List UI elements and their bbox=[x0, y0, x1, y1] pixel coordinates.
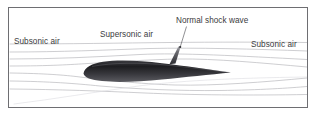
label-subsonic-air-right: Subsonic air bbox=[251, 41, 297, 49]
streamline-8-faint bbox=[14, 77, 307, 104]
streamline-6 bbox=[10, 81, 307, 91]
airfoil-body bbox=[84, 61, 232, 82]
label-supersonic-air: Supersonic air bbox=[100, 31, 153, 39]
label-normal-shock-wave: Normal shock wave bbox=[176, 17, 248, 25]
airflow-diagram: Subsonic air Supersonic air Normal shock… bbox=[0, 0, 325, 119]
shock-leader-dot bbox=[179, 46, 181, 48]
shock-leader-line bbox=[180, 27, 186, 47]
label-subsonic-air-left: Subsonic air bbox=[14, 38, 60, 46]
normal-shock-wave bbox=[170, 47, 181, 65]
diagram-canvas bbox=[0, 0, 325, 119]
streamline-3 bbox=[10, 54, 307, 60]
